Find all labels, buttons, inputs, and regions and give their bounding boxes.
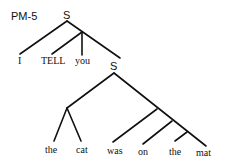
edge-np-the xyxy=(54,108,67,141)
edge-np-cat xyxy=(67,108,81,141)
edge-np-the2 xyxy=(175,132,187,141)
embedded-node-s: S xyxy=(110,60,117,72)
edge-s-s xyxy=(67,21,120,58)
phrase-marker-tree: PM-5 S I TELL you S the cat was on the m… xyxy=(0,0,225,164)
word-was: was xyxy=(107,145,123,156)
edge-s-vp xyxy=(114,73,206,146)
edge-s-np xyxy=(67,73,114,108)
word-on: on xyxy=(138,146,148,157)
word-the: the xyxy=(45,144,58,155)
root-node-s: S xyxy=(63,9,70,21)
word-you: you xyxy=(75,55,90,66)
edge-vp-was xyxy=(113,109,157,142)
edge-s-tell xyxy=(52,32,82,54)
word-cat: cat xyxy=(76,144,88,155)
word-the-2: the xyxy=(169,146,182,157)
word-mat: mat xyxy=(196,147,211,158)
diagram-label: PM-5 xyxy=(11,10,37,22)
edge-pp-on xyxy=(143,121,172,144)
word-tell: TELL xyxy=(41,55,65,66)
word-i: I xyxy=(18,55,21,66)
